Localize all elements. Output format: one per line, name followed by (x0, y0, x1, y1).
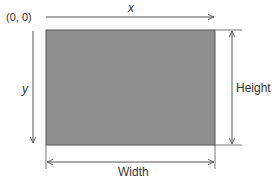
x-axis-label: x (127, 1, 135, 15)
width-label: Width (118, 165, 149, 179)
coordinate-diagram: (0, 0) x y Height Width (0, 0, 280, 181)
rectangle (46, 30, 215, 145)
origin-label: (0, 0) (6, 11, 32, 23)
height-label: Height (236, 81, 271, 95)
y-axis-label: y (21, 82, 29, 96)
